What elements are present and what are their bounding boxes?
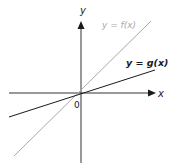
line-f-label: y = f(x) [101, 20, 136, 30]
y-axis-arrowhead-icon [78, 21, 85, 29]
line-g-label: y = g(x) [126, 57, 168, 68]
x-axis-label: x [157, 88, 164, 99]
coordinate-plane: y x 0 y = f(x) y = g(x) [0, 0, 174, 163]
line-f [14, 21, 151, 156]
origin-label: 0 [74, 100, 80, 110]
x-axis-arrowhead-icon [148, 90, 156, 97]
y-axis-label: y [79, 5, 87, 16]
